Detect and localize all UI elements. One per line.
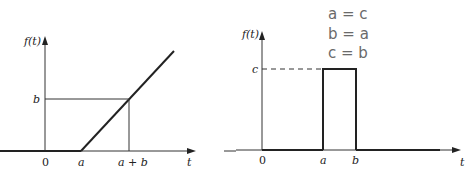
left-aplusb-label: a + b [118,156,148,169]
handwritten-notes: a = c b = a c = b [328,5,369,62]
left-x-arrow-icon [187,148,196,154]
figure-canvas: f(t) b 0 a a + b t f(t) c 0 a b t a = c … [0,0,472,181]
right-b-label: b [352,154,359,167]
handwritten-note-3: c = b [328,44,368,62]
left-y-label: f(t) [23,35,41,48]
right-c-label: c [252,63,258,76]
left-y-arrow-icon [42,36,48,45]
right-x-arrow-icon [452,147,461,153]
left-a-label: a [78,156,85,169]
right-pulse [323,69,356,150]
left-ramp-line [81,51,174,151]
handwritten-note-2: b = a [328,25,369,43]
handwritten-note-1: a = c [328,5,368,23]
right-a-label: a [320,154,327,167]
right-y-arrow-icon [259,31,265,40]
left-t-label: t [187,156,192,169]
left-b-label: b [33,93,40,106]
right-origin-label: 0 [259,154,266,167]
right-t-label: t [460,156,465,169]
left-origin-label: 0 [42,156,49,169]
left-graph: f(t) b 0 a a + b t [0,35,196,169]
right-y-label: f(t) [241,28,259,41]
